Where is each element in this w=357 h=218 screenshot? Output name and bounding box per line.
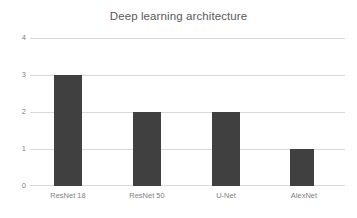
plot-area: [30, 38, 345, 186]
y-axis: 0 1 2 3 4: [0, 38, 26, 186]
bar-resnet-50[interactable]: [133, 112, 161, 186]
x-tick-label-alexnet: AlexNet: [291, 191, 317, 201]
chart-title: Deep learning architecture: [0, 10, 357, 22]
x-tick-label-u-net: U-Net: [216, 191, 236, 201]
bar-alexnet[interactable]: [290, 149, 314, 186]
x-tick-label-resnet-50: ResNet 50: [129, 191, 164, 201]
x-axis: ResNet 18 ResNet 50 U-Net AlexNet: [30, 191, 345, 205]
y-tick-label-3: 3: [4, 71, 26, 79]
gridline-4: [30, 38, 345, 39]
y-tick-label-4: 4: [4, 34, 26, 42]
y-tick-label-2: 2: [4, 108, 26, 116]
y-tick-label-1: 1: [4, 145, 26, 153]
x-tick-label-resnet-18: ResNet 18: [50, 191, 85, 201]
bar-u-net[interactable]: [212, 112, 240, 186]
bar-chart-figure: Deep learning architecture 0 1 2 3 4 Res…: [0, 0, 357, 218]
bar-resnet-18[interactable]: [54, 75, 82, 186]
y-tick-label-0: 0: [4, 182, 26, 190]
